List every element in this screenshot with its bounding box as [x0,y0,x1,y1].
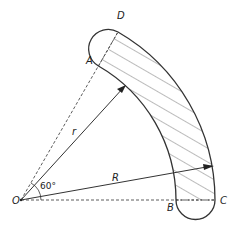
label-B: B [167,203,174,213]
label-angle: 60° [40,182,56,191]
arrowhead-r [117,85,126,93]
label-C: C [220,196,227,206]
label-O: O [12,196,20,206]
label-A: A [86,56,93,66]
label-r: r [72,127,76,137]
label-R: R [112,173,119,183]
dashed-OD [21,32,118,200]
origin-point [20,199,22,201]
tube-diagram [0,0,238,237]
label-D: D [117,11,125,21]
radius-r-arrow [21,87,124,200]
